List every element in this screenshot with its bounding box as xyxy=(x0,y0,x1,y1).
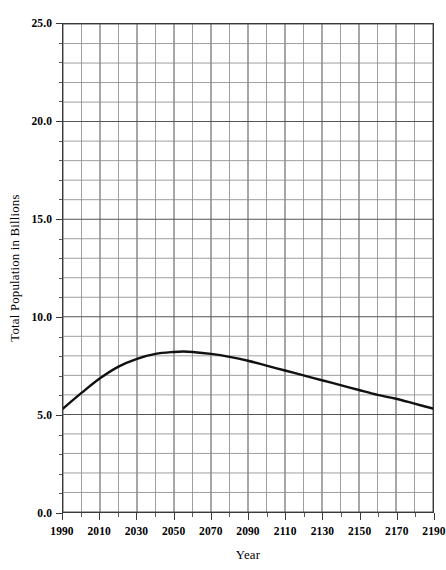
x-tick-mark xyxy=(174,513,175,520)
chart-title xyxy=(0,0,445,7)
x-tick-mark xyxy=(341,513,342,517)
x-axis-title: Year xyxy=(62,548,434,563)
y-tick-label: 20.0 xyxy=(31,115,52,127)
x-tick-mark xyxy=(285,513,286,520)
x-tick-mark xyxy=(192,513,193,517)
x-tick-mark xyxy=(248,513,249,520)
y-axis-tick-labels: 0.05.010.015.020.025.0 xyxy=(0,23,52,513)
x-tick-mark xyxy=(322,513,323,520)
x-tick-mark xyxy=(99,513,100,520)
x-axis-tick-marks xyxy=(62,513,434,521)
x-tick-label: 2130 xyxy=(311,525,334,537)
x-tick-mark xyxy=(397,513,398,520)
x-tick-mark xyxy=(211,513,212,520)
x-tick-label: 2070 xyxy=(199,525,222,537)
y-tick-label: 10.0 xyxy=(31,311,52,323)
x-tick-label: 2050 xyxy=(162,525,185,537)
x-tick-label: 2010 xyxy=(87,525,110,537)
x-tick-label: 2190 xyxy=(422,525,445,537)
y-tick-label: 25.0 xyxy=(31,17,52,29)
x-tick-label: 2110 xyxy=(274,525,297,537)
x-tick-mark xyxy=(155,513,156,517)
x-tick-mark xyxy=(62,513,63,520)
population-curve xyxy=(63,24,433,512)
y-tick-label: 0.0 xyxy=(37,507,52,519)
x-tick-label: 1990 xyxy=(50,525,73,537)
series-line xyxy=(63,352,433,409)
x-tick-label: 2170 xyxy=(385,525,408,537)
x-tick-mark xyxy=(81,513,82,517)
x-tick-label: 2150 xyxy=(348,525,371,537)
x-tick-mark xyxy=(434,513,435,520)
y-tick-label: 5.0 xyxy=(37,409,52,421)
x-tick-mark xyxy=(378,513,379,517)
y-tick-label: 15.0 xyxy=(31,213,52,225)
x-tick-mark xyxy=(136,513,137,520)
x-tick-mark xyxy=(229,513,230,517)
x-tick-mark xyxy=(360,513,361,520)
x-tick-mark xyxy=(118,513,119,517)
x-tick-mark xyxy=(304,513,305,517)
x-tick-mark xyxy=(267,513,268,517)
plot-area xyxy=(62,23,434,513)
x-tick-label: 2030 xyxy=(125,525,148,537)
x-tick-label: 2090 xyxy=(236,525,259,537)
x-axis-tick-labels: 1990201020302050207020902110213021502170… xyxy=(0,525,445,543)
x-tick-mark xyxy=(415,513,416,517)
